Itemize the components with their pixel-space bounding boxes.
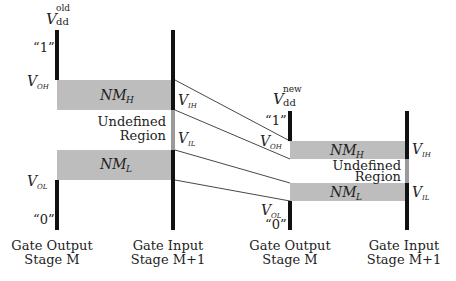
right-stage: V new dd “1” “0” V OH V OL NM H NM L Und…: [249, 84, 441, 267]
gate-output-caption: Gate Output: [11, 238, 93, 253]
vdd-new-sub: dd: [283, 97, 296, 108]
vil-sub: IL: [187, 140, 196, 148]
undefined-region-line2-right: Region: [355, 169, 402, 184]
input-high-bar-left: [171, 30, 175, 110]
input-low-bar-right: [405, 183, 409, 230]
output-low-bar-left: [55, 180, 59, 230]
vil-sub-right: IL: [421, 194, 430, 202]
voh-sub: OH: [37, 83, 50, 91]
gate-output-caption-right: Gate Output: [249, 238, 331, 253]
nml-sub-right: L: [355, 192, 362, 202]
gate-input-caption-right: Gate Input: [369, 238, 440, 253]
output-low-bar-right: [288, 201, 292, 230]
left-stage: V old dd “1” “0” V OH V OL NM H NM L Und…: [11, 3, 205, 267]
vih-sub-right: IH: [421, 151, 432, 159]
nmh-sub: H: [125, 95, 134, 105]
stage-m1-caption: Stage M+1: [131, 252, 206, 267]
nmh-label-right: NM: [329, 142, 357, 158]
stage-m-caption-right: Stage M: [262, 252, 317, 267]
undefined-region-line2: Region: [120, 128, 167, 143]
vdd-old-sub: dd: [56, 16, 69, 27]
input-high-bar-right: [405, 111, 409, 159]
vdd-new-sup: new: [283, 84, 302, 94]
undefined-bar-right: [405, 159, 409, 183]
vol-sub-right: OL: [271, 212, 282, 220]
nml-sub: L: [125, 164, 132, 174]
undefined-region-line1: Undefined: [98, 114, 166, 129]
voh-sub-right: OH: [270, 143, 283, 151]
stage-m1-caption-right: Stage M+1: [367, 252, 442, 267]
output-high-bar-left: [55, 30, 59, 80]
logic-one-label-right: “1”: [265, 113, 287, 128]
output-high-bar-right: [288, 111, 292, 141]
undefined-bar-left: [171, 110, 175, 150]
vdd-old-sup: old: [56, 3, 70, 13]
vol-sub: OL: [37, 183, 48, 191]
nmh-label: NM: [99, 87, 127, 103]
nml-label-right: NM: [329, 184, 357, 200]
stage-m-caption: Stage M: [24, 252, 79, 267]
input-low-bar-left: [171, 150, 175, 230]
gate-input-caption: Gate Input: [133, 238, 204, 253]
nml-label: NM: [99, 156, 127, 172]
logic-one-label: “1”: [33, 40, 55, 55]
noise-margin-diagram: V old dd “1” “0” V OH V OL NM H NM L Und…: [0, 0, 456, 281]
logic-zero-label: “0”: [33, 212, 55, 227]
vih-sub: IH: [187, 102, 198, 110]
